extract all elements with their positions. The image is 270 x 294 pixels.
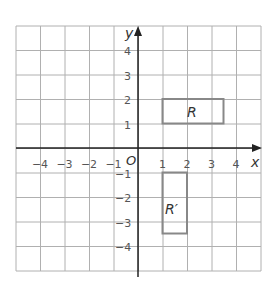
y-tick-label: 2 xyxy=(124,94,131,107)
y-tick-labels: 4321−1−2−3−4 xyxy=(115,45,131,254)
y-tick-label: −4 xyxy=(115,241,131,254)
x-tick-label: 2 xyxy=(184,158,191,171)
y-tick-label: −2 xyxy=(115,192,131,205)
x-tick-label: 4 xyxy=(233,158,240,171)
x-tick-label: −3 xyxy=(56,158,72,171)
coordinate-grid: x y O −4−3−2−11234 4321−1−2−3−4 R R′ xyxy=(0,0,270,294)
x-axis-label: x xyxy=(250,154,260,170)
x-tick-label: 1 xyxy=(159,158,166,171)
rectangle-R-label: R xyxy=(187,104,197,120)
y-tick-label: 1 xyxy=(124,119,131,132)
x-tick-label: −2 xyxy=(81,158,97,171)
y-tick-label: −3 xyxy=(115,217,131,230)
y-axis xyxy=(134,26,142,277)
x-tick-label: −4 xyxy=(32,158,48,171)
origin-label: O xyxy=(126,153,136,168)
rectangle-R-prime-label: R′ xyxy=(165,201,179,217)
y-tick-label: −1 xyxy=(115,168,131,181)
y-axis-label: y xyxy=(124,25,134,41)
x-tick-label: 3 xyxy=(208,158,215,171)
y-axis-arrow-icon xyxy=(134,26,142,36)
y-tick-label: 3 xyxy=(124,70,131,83)
y-tick-label: 4 xyxy=(124,45,131,58)
